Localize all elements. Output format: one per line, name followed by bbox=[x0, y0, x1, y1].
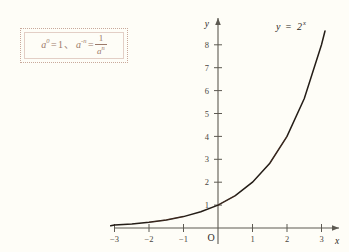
fraction-denominator: an bbox=[95, 45, 107, 56]
curve-label-lhs: y bbox=[275, 21, 281, 32]
curve-label: y = 2 x bbox=[275, 19, 306, 32]
y-tick-labels: 1 2 3 4 5 6 7 8 bbox=[205, 40, 210, 210]
fraction-numerator: 1 bbox=[95, 34, 107, 43]
y-tick-label: 4 bbox=[205, 132, 210, 142]
y-tick-label: 5 bbox=[205, 109, 209, 119]
y-tick-label: 7 bbox=[205, 63, 209, 73]
y-axis bbox=[215, 18, 221, 244]
exponent-rules-formula: a0=1、a-n=1an bbox=[41, 34, 107, 57]
y-tick-label: 3 bbox=[205, 154, 209, 164]
equals-sign-1: = bbox=[49, 39, 58, 50]
exponential-graph: −3 −2 −1 1 2 3 1 2 3 4 5 6 7 8 y x bbox=[108, 6, 349, 252]
curve-label-exponent: x bbox=[302, 19, 306, 26]
y-tick-label: 8 bbox=[205, 40, 209, 50]
origin-label: O bbox=[207, 232, 214, 243]
ideographic-comma: 、 bbox=[63, 39, 76, 50]
y-tick-label: 2 bbox=[205, 177, 209, 187]
figure-page: a0=1、a-n=1an bbox=[0, 0, 349, 252]
x-axis-arrow bbox=[332, 225, 339, 231]
fraction-one-over-a-n: 1an bbox=[95, 34, 107, 57]
denominator-exponent: n bbox=[102, 44, 105, 51]
curve-label-base: 2 bbox=[297, 21, 302, 32]
x-tick-label: 1 bbox=[250, 234, 254, 244]
x-tick-label: −1 bbox=[179, 234, 188, 244]
x-tick-label: −3 bbox=[110, 234, 119, 244]
x-tick-labels: −3 −2 −1 1 2 3 bbox=[110, 234, 324, 244]
y-tick-label: 6 bbox=[205, 86, 209, 96]
x-axis-label: x bbox=[334, 236, 340, 246]
x-axis bbox=[114, 225, 339, 231]
y-axis-arrow bbox=[215, 18, 221, 25]
y-axis-label: y bbox=[204, 19, 210, 29]
equals-sign-2: = bbox=[86, 39, 95, 50]
x-tick-label: 3 bbox=[319, 234, 323, 244]
x-tick-label: −2 bbox=[144, 234, 153, 244]
curve-label-equals: = bbox=[285, 21, 292, 32]
x-tick-label: 2 bbox=[285, 234, 289, 244]
